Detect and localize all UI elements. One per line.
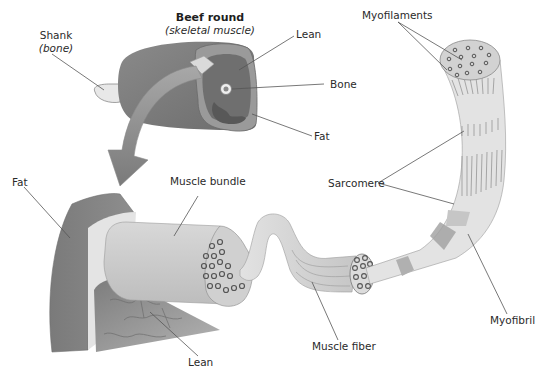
label-sarcomere: Sarcomere — [328, 177, 385, 190]
label-lean-bottom: Lean — [188, 356, 213, 369]
label-bone: Bone — [330, 78, 357, 91]
label-fat-top: Fat — [314, 130, 330, 143]
label-shank: Shank — [36, 29, 76, 42]
label-myofibril: Myofibril — [490, 314, 535, 327]
leader-myofibril — [468, 234, 507, 314]
myofibril-tube — [366, 60, 506, 284]
leader-fat-left — [24, 187, 70, 238]
label-muscle-bundle: Muscle bundle — [170, 175, 246, 188]
muscle-structure-diagram — [0, 0, 546, 372]
fiber-strand — [240, 214, 356, 292]
leader-myofilaments-2 — [398, 22, 447, 70]
leader-myofilaments-1 — [398, 22, 462, 60]
beef-round-title: Beef round — [155, 11, 265, 24]
label-muscle-fiber: Muscle fiber — [312, 340, 376, 353]
label-shank-sub: (bone) — [34, 42, 78, 55]
muscle-fiber-illustration — [240, 214, 374, 294]
shank-bone-shape — [94, 84, 122, 103]
label-myofilaments: Myofilaments — [362, 9, 433, 22]
leader-sarcomere-1 — [378, 131, 464, 183]
beef-round-subtitle: (skeletal muscle) — [148, 24, 272, 37]
leader-shank — [52, 54, 104, 90]
label-lean-top: Lean — [296, 28, 321, 41]
label-fat-left: Fat — [12, 176, 28, 189]
leader-sarcomere-2 — [378, 183, 454, 204]
myofibril-illustration — [366, 40, 506, 284]
leader-fat-top — [252, 114, 312, 136]
muscle-cut-section — [50, 193, 253, 352]
myofibril-cross-section — [440, 40, 500, 80]
